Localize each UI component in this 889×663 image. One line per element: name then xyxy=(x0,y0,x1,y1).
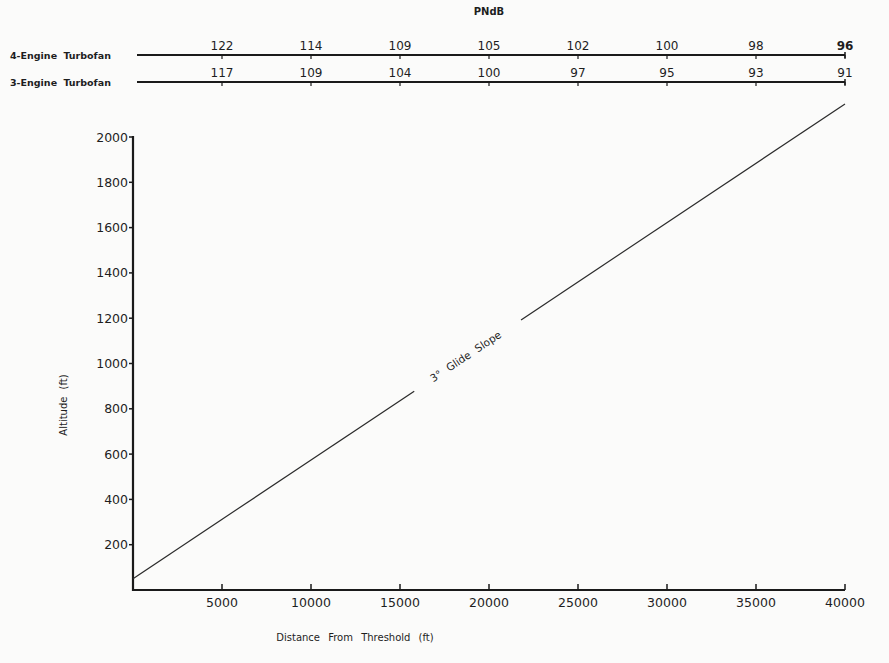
x-axis-label: Distance From Threshold (ft) xyxy=(276,632,433,643)
glide-slope-annotation: 3° Glide Slope xyxy=(428,328,504,384)
pndb-value: 109 xyxy=(389,39,412,53)
pndb-value: 105 xyxy=(478,39,501,53)
pndb-value: 117 xyxy=(211,66,234,80)
x-tick-label: 10000 xyxy=(291,595,331,610)
pndb-value: 100 xyxy=(656,39,679,53)
pndb-value: 100 xyxy=(478,66,501,80)
pndb-value: 91 xyxy=(837,66,852,80)
y-tick-label: 600 xyxy=(104,447,128,462)
glide-slope-chart: 2004006008001000120014001600180020005000… xyxy=(0,0,889,663)
y-tick-label: 800 xyxy=(104,401,128,416)
y-tick-label: 2000 xyxy=(96,130,128,145)
pndb-title: PNdB xyxy=(474,6,504,17)
pndb-value: 102 xyxy=(567,39,590,53)
x-tick-label: 5000 xyxy=(206,595,238,610)
pndb-value: 96 xyxy=(837,39,854,53)
y-tick-label: 1200 xyxy=(96,311,128,326)
pndb-row-label: 4-Engine Turbofan xyxy=(10,50,111,61)
glide-slope-line xyxy=(133,391,414,579)
pndb-value: 95 xyxy=(659,66,674,80)
y-axis-label: Altitude (ft) xyxy=(58,374,69,435)
pndb-value: 97 xyxy=(570,66,585,80)
glide-slope-line xyxy=(521,104,845,320)
y-tick-label: 1600 xyxy=(96,220,128,235)
x-tick-label: 35000 xyxy=(736,595,776,610)
y-tick-label: 400 xyxy=(104,492,128,507)
y-tick-label: 1400 xyxy=(96,265,128,280)
x-tick-label: 20000 xyxy=(469,595,509,610)
x-tick-label: 15000 xyxy=(380,595,420,610)
pndb-value: 104 xyxy=(389,66,412,80)
pndb-value: 98 xyxy=(748,39,763,53)
pndb-value: 93 xyxy=(748,66,763,80)
pndb-value: 114 xyxy=(300,39,323,53)
pndb-value: 109 xyxy=(300,66,323,80)
pndb-value: 122 xyxy=(211,39,234,53)
x-tick-label: 40000 xyxy=(825,595,865,610)
y-tick-label: 200 xyxy=(104,537,128,552)
y-tick-label: 1800 xyxy=(96,175,128,190)
x-tick-label: 25000 xyxy=(558,595,598,610)
pndb-row-label: 3-Engine Turbofan xyxy=(10,77,111,88)
y-tick-label: 1000 xyxy=(96,356,128,371)
x-tick-label: 30000 xyxy=(647,595,687,610)
